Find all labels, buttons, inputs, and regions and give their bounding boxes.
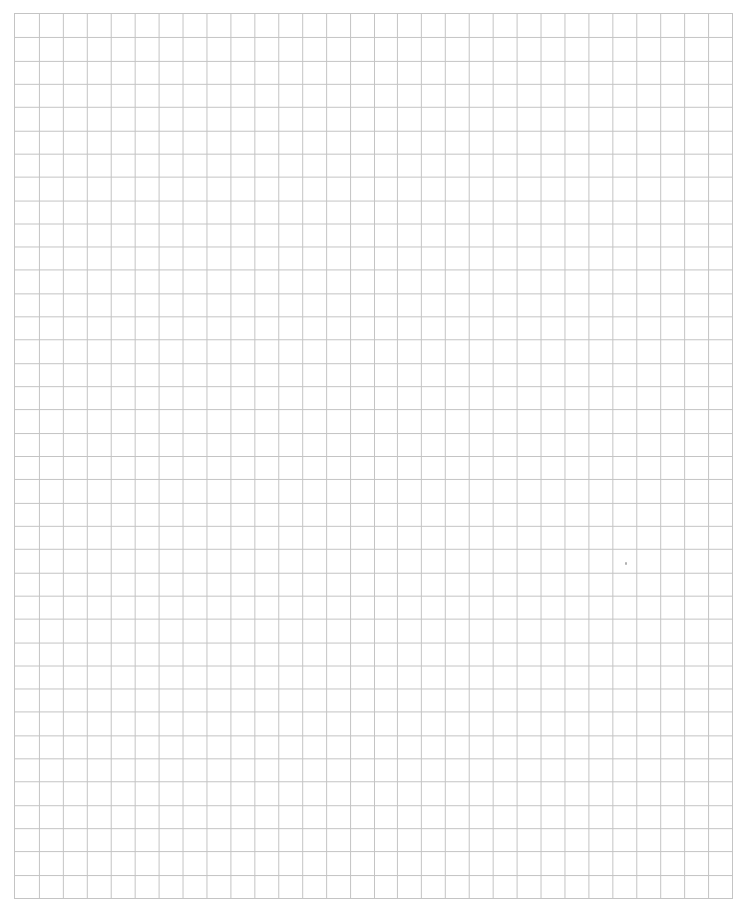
grid-lines bbox=[15, 14, 732, 898]
stray-mark bbox=[625, 562, 627, 565]
graph-paper-page bbox=[0, 0, 745, 913]
graph-paper-grid bbox=[14, 13, 733, 899]
